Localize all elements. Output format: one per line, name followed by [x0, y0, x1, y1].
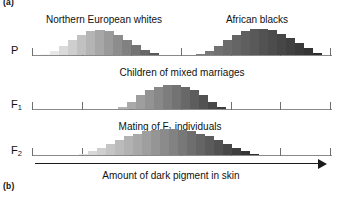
- panel-label-a: (a): [3, 0, 14, 7]
- arrow-line: [35, 163, 319, 164]
- row-label-subscript: 2: [18, 149, 22, 158]
- row-label-f2: F2: [11, 144, 33, 156]
- axis-line-p: [32, 55, 332, 56]
- panel-label-b: (b): [3, 181, 14, 191]
- histogram-bar: [217, 107, 227, 109]
- right-arrow-icon: [318, 159, 327, 169]
- distribution-caption: African blacks: [226, 14, 288, 25]
- axis-tick: [330, 48, 331, 56]
- distribution-caption: Northern European whites: [46, 14, 162, 25]
- distribution-caption: Children of mixed marriages: [119, 67, 244, 78]
- axis-tick: [231, 102, 232, 110]
- axis-tick: [330, 148, 331, 156]
- axis-line-f1: [32, 109, 332, 110]
- histogram-bar: [250, 154, 260, 155]
- polygenic-inheritance-figure: (a) PNorthern European whitesAfrican bla…: [0, 0, 342, 199]
- row-label-p: P: [11, 44, 33, 56]
- axis-tick: [280, 102, 281, 110]
- row-label-f1: F1: [11, 98, 33, 110]
- axis-tick: [181, 48, 182, 56]
- histogram-bar: [149, 53, 159, 55]
- x-axis-title: Amount of dark pigment in skin: [0, 170, 342, 181]
- histogram-bar: [313, 53, 323, 55]
- axis-tick: [82, 102, 83, 110]
- axis-tick: [330, 102, 331, 110]
- axis-line-f2: [32, 155, 332, 156]
- row-label-subscript: 1: [18, 103, 22, 112]
- axis-tick: [280, 148, 281, 156]
- pigment-gradient-arrow: [35, 158, 327, 170]
